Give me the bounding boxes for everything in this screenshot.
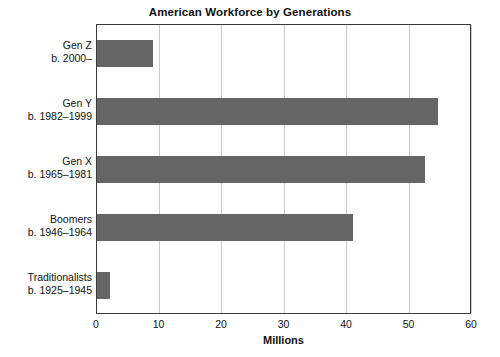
bar bbox=[97, 40, 153, 67]
category-label-name: Gen Y bbox=[62, 97, 92, 109]
category-label: Traditionalistsb. 1925–1945 bbox=[0, 271, 92, 297]
bar bbox=[97, 214, 353, 241]
gridline bbox=[471, 25, 472, 313]
chart-title: American Workforce by Generations bbox=[0, 6, 500, 18]
x-tick-label: 40 bbox=[326, 318, 366, 330]
category-label: Gen Zb. 2000– bbox=[0, 39, 92, 65]
x-tick-label: 0 bbox=[76, 318, 116, 330]
x-tick-label: 20 bbox=[201, 318, 241, 330]
category-label-years: b. 1925–1945 bbox=[0, 284, 92, 297]
category-label-years: b. 1982–1999 bbox=[0, 110, 92, 123]
category-label-name: Gen X bbox=[62, 155, 92, 167]
category-label-name: Gen Z bbox=[63, 39, 92, 51]
category-label: Gen Xb. 1965–1981 bbox=[0, 155, 92, 181]
x-axis-title: Millions bbox=[96, 334, 471, 346]
bar bbox=[97, 272, 110, 299]
bar-chart: American Workforce by Generations 010203… bbox=[0, 0, 500, 357]
category-label: Boomersb. 1946–1964 bbox=[0, 213, 92, 239]
category-label-years: b. 1965–1981 bbox=[0, 168, 92, 181]
category-label-years: b. 2000– bbox=[0, 52, 92, 65]
category-label-name: Boomers bbox=[50, 213, 92, 225]
bar bbox=[97, 156, 425, 183]
x-tick-label: 60 bbox=[451, 318, 491, 330]
x-tick-label: 10 bbox=[139, 318, 179, 330]
category-label: Gen Yb. 1982–1999 bbox=[0, 97, 92, 123]
bar bbox=[97, 98, 438, 125]
x-tick-label: 50 bbox=[389, 318, 429, 330]
category-label-name: Traditionalists bbox=[28, 271, 92, 283]
category-label-years: b. 1946–1964 bbox=[0, 226, 92, 239]
x-tick-label: 30 bbox=[264, 318, 304, 330]
